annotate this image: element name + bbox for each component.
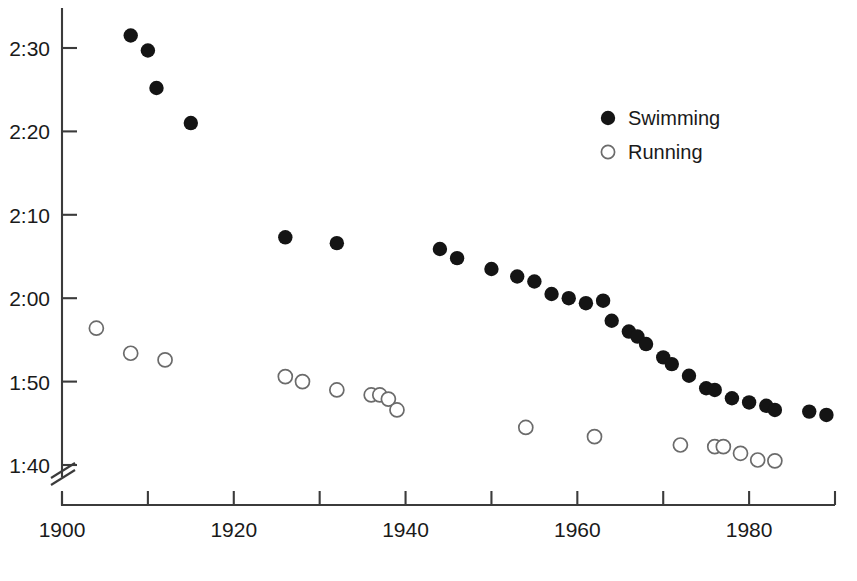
data-point-running <box>588 430 602 444</box>
data-point-running <box>390 403 404 417</box>
data-point-swimming <box>802 404 816 418</box>
chart-legend: SwimmingRunning <box>601 107 720 163</box>
y-axis-tick-labels: 2:302:202:102:001:501:40 <box>9 37 50 477</box>
data-point-running <box>124 346 138 360</box>
data-point-swimming <box>124 28 138 42</box>
legend-marker-swimming <box>601 111 615 125</box>
series-running-points <box>89 321 782 468</box>
y-tick-label: 2:30 <box>9 37 50 60</box>
legend-marker-running <box>601 145 614 158</box>
data-point-swimming <box>544 287 558 301</box>
x-tick-label: 1980 <box>726 518 773 541</box>
y-tick-label: 1:40 <box>9 454 50 477</box>
data-point-swimming <box>665 357 679 371</box>
data-point-swimming <box>819 408 833 422</box>
x-tick-label: 1900 <box>39 518 86 541</box>
x-tick-label: 1960 <box>554 518 601 541</box>
data-point-swimming <box>725 391 739 405</box>
data-point-swimming <box>141 43 155 57</box>
y-tick-label: 2:20 <box>9 120 50 143</box>
data-point-swimming <box>639 337 653 351</box>
data-point-swimming <box>742 395 756 409</box>
chart-canvas: 2:302:202:102:001:501:40 190019201940196… <box>0 0 857 581</box>
data-point-running <box>768 454 782 468</box>
legend-label-running: Running <box>628 141 703 163</box>
data-point-running <box>734 446 748 460</box>
record-progression-chart: 2:302:202:102:001:501:40 190019201940196… <box>0 0 857 581</box>
data-point-running <box>278 370 292 384</box>
y-tick-label: 2:00 <box>9 287 50 310</box>
data-point-swimming <box>278 230 292 244</box>
data-point-swimming <box>579 296 593 310</box>
data-point-swimming <box>682 369 696 383</box>
data-point-swimming <box>562 291 576 305</box>
series-swimming-points <box>124 28 834 422</box>
data-point-running <box>716 440 730 454</box>
data-point-swimming <box>184 116 198 130</box>
data-point-swimming <box>433 242 447 256</box>
data-point-swimming <box>484 262 498 276</box>
data-point-running <box>673 438 687 452</box>
data-point-running <box>751 453 765 467</box>
data-point-swimming <box>527 274 541 288</box>
x-tick-label: 1920 <box>210 518 257 541</box>
data-point-running <box>519 420 533 434</box>
data-point-swimming <box>596 294 610 308</box>
data-point-running <box>158 353 172 367</box>
x-axis-line <box>62 492 835 505</box>
data-point-swimming <box>149 81 163 95</box>
data-point-swimming <box>768 403 782 417</box>
legend-label-swimming: Swimming <box>628 107 720 129</box>
data-point-swimming <box>450 251 464 265</box>
x-axis-tick-labels: 19001920194019601980 <box>39 518 773 541</box>
data-point-swimming <box>330 236 344 250</box>
data-point-running <box>89 321 103 335</box>
x-tick-label: 1940 <box>382 518 429 541</box>
axes <box>51 8 835 505</box>
data-point-swimming <box>510 269 524 283</box>
data-point-swimming <box>604 314 618 328</box>
data-point-running <box>295 375 309 389</box>
y-tick-label: 1:50 <box>9 371 50 394</box>
data-point-running <box>330 383 344 397</box>
y-tick-label: 2:10 <box>9 204 50 227</box>
data-point-swimming <box>708 383 722 397</box>
